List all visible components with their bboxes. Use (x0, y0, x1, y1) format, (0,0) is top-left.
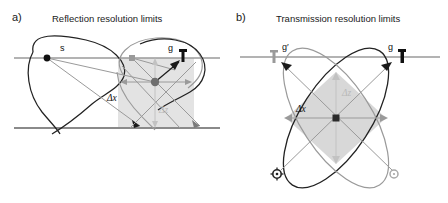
geophone-right-label: g (388, 42, 393, 52)
isochron-curve-source-outer (33, 36, 125, 134)
ray-arrowhead-geophone-right (381, 62, 392, 71)
delta-x-arrowhead-right (380, 114, 388, 122)
figure-root: a) Reflection resolution limits (0, 0, 448, 203)
panel-transmission: b) Transmission resolution limits (224, 0, 448, 203)
geophone-left-label: g′ (282, 42, 289, 52)
ray-arrowhead-geophone-left (281, 62, 292, 71)
delta-x-label: Δx (295, 104, 307, 114)
delta-x-label: Δx (106, 93, 118, 103)
panel-reflection: a) Reflection resolution limits (0, 0, 224, 203)
geophone-left-marker-square (129, 55, 135, 61)
geophone-right-label: g (168, 43, 173, 53)
image-point-marker-square (333, 115, 340, 122)
resolution-cell-rect (118, 58, 194, 128)
delta-z-label: Δz (341, 88, 352, 98)
delta-z-label: Δz (158, 105, 169, 115)
geophone-left-marker-head (270, 50, 278, 53)
panel-a-drawing: s g Δx Δz (0, 0, 224, 203)
panel-b-drawing: g′ g Δx Δz (224, 0, 448, 203)
source-label: s (60, 43, 65, 53)
geophone-right-marker-head (398, 49, 406, 52)
geophone-right-marker-head (179, 49, 187, 52)
delta-x-arrowhead-left (284, 114, 292, 122)
image-point-marker-dot (151, 78, 159, 86)
source-marker-dot (44, 55, 51, 62)
source-right-marker (390, 170, 398, 178)
geophone-left-marker-bar (273, 51, 276, 63)
